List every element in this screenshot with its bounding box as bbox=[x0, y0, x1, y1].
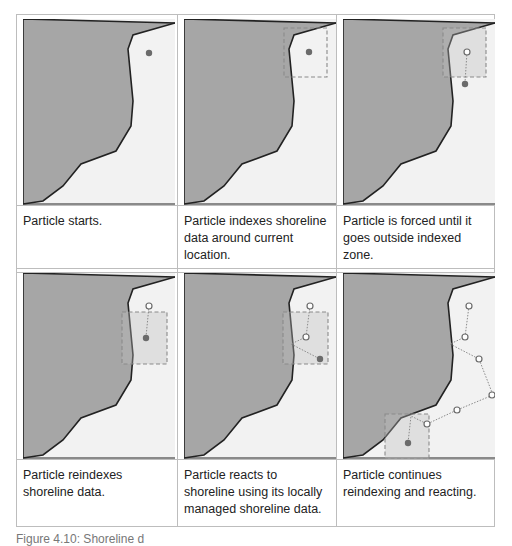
particle-past-icon bbox=[424, 421, 430, 427]
panel-caption: Particle continues reindexing and reacti… bbox=[337, 460, 494, 509]
coastline-map bbox=[184, 273, 336, 459]
index-zone-box bbox=[385, 414, 429, 459]
particle-current-icon bbox=[405, 440, 411, 446]
panel-1-caption-cell: Particle starts. bbox=[17, 206, 178, 273]
particle-past-icon bbox=[146, 303, 152, 309]
panel-6-diagram bbox=[337, 269, 494, 459]
panel-1-cell bbox=[17, 15, 178, 206]
panel-2-diagram bbox=[178, 15, 336, 205]
panel-5-cell bbox=[178, 269, 337, 460]
particle-current-icon bbox=[146, 50, 152, 56]
panel-4-diagram bbox=[17, 269, 177, 459]
figure-table-top: Particle starts. Particle indexes shorel… bbox=[16, 14, 495, 273]
particle-current-icon bbox=[462, 81, 468, 87]
particle-past-icon bbox=[462, 334, 468, 340]
coastline-map bbox=[343, 273, 495, 459]
particle-past-icon bbox=[466, 303, 472, 309]
panel-4-caption-cell: Particle reindexes shoreline data. bbox=[17, 460, 178, 527]
particle-past-icon bbox=[489, 392, 495, 398]
coastline-map bbox=[23, 19, 175, 205]
figure-table-bottom: Particle reindexes shoreline data. Parti… bbox=[16, 268, 495, 527]
particle-past-icon bbox=[303, 334, 309, 340]
particle-past-icon bbox=[464, 49, 470, 55]
coastline-map bbox=[343, 19, 495, 205]
panel-2-caption-cell: Particle indexes shoreline data around c… bbox=[178, 206, 337, 273]
panel-5-caption-cell: Particle reacts to shoreline using its l… bbox=[178, 460, 337, 527]
panel-3-caption-cell: Particle is forced until it goes outside… bbox=[337, 206, 495, 273]
particle-past-icon bbox=[454, 407, 460, 413]
coastline-map bbox=[23, 273, 175, 459]
panel-caption: Particle reindexes shoreline data. bbox=[17, 460, 177, 509]
panel-1-diagram bbox=[17, 15, 177, 205]
panel-3-cell bbox=[337, 15, 495, 206]
coastline-map bbox=[184, 19, 336, 205]
particle-past-icon bbox=[476, 356, 482, 362]
panel-caption: Particle indexes shoreline data around c… bbox=[178, 206, 336, 272]
panel-4-cell bbox=[17, 269, 178, 460]
panel-caption: Particle starts. bbox=[17, 206, 177, 238]
panel-6-caption-cell: Particle continues reindexing and reacti… bbox=[337, 460, 495, 527]
panel-caption: Particle reacts to shoreline using its l… bbox=[178, 460, 336, 526]
particle-current-icon bbox=[143, 335, 149, 341]
panel-3-diagram bbox=[337, 15, 494, 205]
particle-past-icon bbox=[307, 303, 313, 309]
panel-caption: Particle is forced until it goes outside… bbox=[337, 206, 494, 272]
particle-current-icon bbox=[306, 49, 312, 55]
particle-current-icon bbox=[317, 356, 323, 362]
panel-6-cell bbox=[337, 269, 495, 460]
panel-2-cell bbox=[178, 15, 337, 206]
panel-5-diagram bbox=[178, 269, 336, 459]
figure-caption: Figure 4.10: Shoreline d bbox=[16, 532, 144, 546]
